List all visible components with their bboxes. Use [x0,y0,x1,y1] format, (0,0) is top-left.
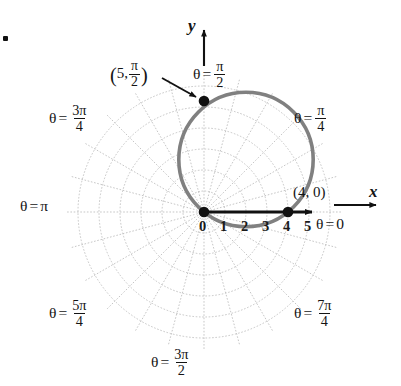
angle-label-theta-7pi-4: θ= 7π 4 [294,299,335,330]
theta-symbol: θ [20,197,27,214]
zero-value: 0 [336,215,344,232]
pole-point[interactable] [199,207,210,218]
fraction-denominator: 2 [176,362,187,378]
close-paren: ) [141,64,148,86]
fraction-numerator: π [315,103,326,118]
fraction-pi-4: π 4 [315,103,326,134]
theta-symbol: θ [294,109,301,126]
fraction-denominator: 4 [319,313,330,329]
radial-tick-3: 3 [262,218,269,235]
fraction-numerator: π [214,59,225,74]
fraction-7pi-4: 7π 4 [315,298,333,329]
pi-symbol: π [40,197,48,214]
angle-label-theta-3pi-4: θ= 3π 4 [49,104,90,135]
radial-tick-5: 5 [304,218,311,235]
angle-label-theta-pi-4: θ= π 4 [294,104,327,135]
fraction-3pi-2: 3π 2 [172,347,190,378]
point-r-value: 5, [117,65,128,81]
fraction-5pi-4: 5π 4 [70,298,88,329]
fraction-pi-2: π 2 [129,59,140,89]
angle-label-theta-3pi-2: θ= 3π 2 [151,348,192,379]
fraction-3pi-4: 3π 4 [70,103,88,134]
theta-symbol: θ [49,304,56,321]
radial-tick-0: 0 [199,218,206,235]
equals-sign: = [325,215,334,232]
equals-sign: = [160,353,169,370]
angle-label-theta-5pi-4: θ= 5π 4 [49,299,90,330]
fraction-pi-2: π 2 [214,59,225,90]
equals-sign: = [303,304,312,321]
radial-tick-4: 4 [283,218,290,235]
radial-tick-2: 2 [241,218,248,235]
fraction-numerator: 5π [70,298,88,313]
point-5-pi-2-dot[interactable] [199,96,210,107]
theta-symbol: θ [316,215,323,232]
open-paren: ( [110,64,117,86]
angle-label-theta-pi: θ=π [20,198,48,214]
polar-graph-figure: y x θ= π 2 θ= π 4 θ= 3π 4 θ=π θ=0 θ= 5π … [0,0,401,386]
equals-sign: = [29,197,38,214]
radial-tick-1: 1 [220,218,227,235]
point-label-5-pi-2: (5, π 2 ) [110,60,148,90]
theta-symbol: θ [193,65,200,82]
angle-label-theta-pi-2: θ= π 2 [193,60,226,91]
fraction-denominator: 2 [129,74,140,89]
fraction-numerator: 7π [315,298,333,313]
fraction-numerator: π [129,59,140,73]
theta-symbol: θ [49,109,56,126]
callout-arrow-5-pi-2 [162,78,196,97]
equals-sign: = [58,109,67,126]
equals-sign: = [202,65,211,82]
angle-label-theta-0: θ=0 [316,216,344,232]
y-axis-label: y [188,17,196,34]
theta-symbol: θ [294,304,301,321]
fraction-denominator: 4 [315,118,326,134]
equals-sign: = [58,304,67,321]
point-4-0-dot[interactable] [283,207,294,218]
point-label-4-0: (4, 0) [293,185,326,200]
fraction-numerator: 3π [70,103,88,118]
fraction-numerator: 3π [172,347,190,362]
fraction-denominator: 4 [74,118,85,134]
theta-symbol: θ [151,353,158,370]
fraction-denominator: 2 [214,74,225,90]
x-axis-label: x [369,183,378,200]
equals-sign: = [303,109,312,126]
fraction-denominator: 4 [74,313,85,329]
